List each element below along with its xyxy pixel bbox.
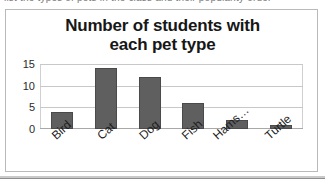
x-slot-turtle: Turtle <box>259 130 303 179</box>
y-tick-0: 0 <box>11 123 35 135</box>
chart-container: Number of students with each pet type 15… <box>5 9 318 172</box>
bar-cat[interactable] <box>95 68 117 129</box>
x-slot-fish: Fish <box>171 130 215 179</box>
plot-area: 15 10 5 0 <box>40 64 303 129</box>
y-tick-5: 5 <box>11 101 35 113</box>
scanned-text-line: list the types of pets in the class and … <box>4 0 272 3</box>
bar-slot-cat <box>84 64 128 129</box>
chart-title-line-1: Number of students with <box>6 16 319 35</box>
chart-title-line-2: each pet type <box>6 35 319 54</box>
x-slot-dog: Dog <box>128 130 172 179</box>
scanned-text-fragment: list the types of pets in the class and … <box>0 0 325 9</box>
x-slot-bird: Bird <box>40 130 84 179</box>
chart-title: Number of students with each pet type <box>6 16 319 54</box>
chart-screenshot: list the types of pets in the class and … <box>0 0 325 179</box>
y-tick-10: 10 <box>11 80 35 92</box>
x-axis-labels: Bird Cat Dog Fish Hams… Turtle <box>40 130 303 179</box>
x-slot-hamster: Hams… <box>215 130 259 179</box>
x-slot-cat: Cat <box>84 130 128 179</box>
y-tick-15: 15 <box>11 58 35 70</box>
page-bottom-rule <box>0 178 325 179</box>
bar-series <box>40 64 303 129</box>
